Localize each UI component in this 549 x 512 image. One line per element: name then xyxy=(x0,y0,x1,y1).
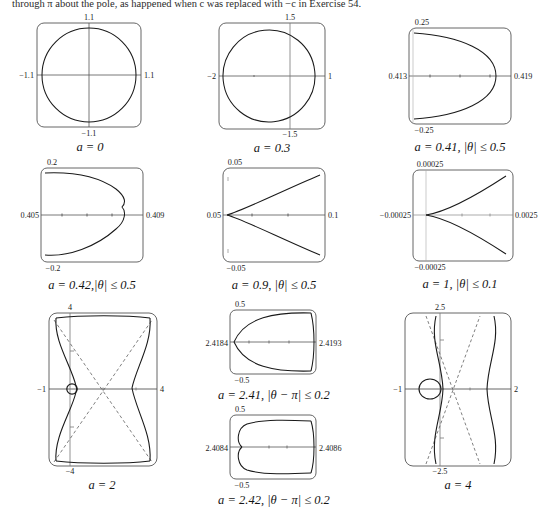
figure-panel-a09: 0.05 −0.05 0.05 0.1 a = 0.9, |θ| ≤ 0.5 xyxy=(190,158,360,296)
axis-tick-bottom-a042: −0.2 xyxy=(46,264,61,273)
figure-panel-a241: 0.5 −0.5 2.4184 2.4193 a = 2.41, |θ − π|… xyxy=(190,300,360,400)
axis-tick-left-a041: 0.413 xyxy=(389,72,407,81)
figure-caption-a041: a = 0.41, |θ| ≤ 0.5 xyxy=(415,140,506,154)
figure-caption-a0: a = 0 xyxy=(76,140,103,154)
figure-panel-a03: 1.5 −1.5 −2 1 a = 0.3 xyxy=(196,18,356,156)
figure-panel-a041: 0.25 −0.25 0.413 0.419 a = 0.41, |θ| ≤ 0… xyxy=(376,18,546,156)
figure-caption-a4: a = 4 xyxy=(444,478,471,492)
axis-tick-right-a1: 0.0025 xyxy=(515,211,538,220)
plot-frame-a1 xyxy=(412,169,514,262)
axis-tick-top-a041: 0.25 xyxy=(415,18,429,27)
axis-tick-bottom-a03: −1.5 xyxy=(283,130,298,139)
axis-tick-bottom-a2: −4 xyxy=(66,467,75,476)
axis-tick-top-a09: 0.05 xyxy=(228,158,242,167)
figure-panel-a4: 2.5 −2.5 −1 2 a = 4 xyxy=(376,300,546,500)
axis-tick-left-a042: 0.405 xyxy=(21,211,39,220)
figure-caption-a09: a = 0.9, |θ| ≤ 0.5 xyxy=(232,278,317,292)
plot-frame-a0 xyxy=(36,22,142,128)
axis-tick-top-a241: 0.5 xyxy=(235,300,245,309)
figure-caption-a1: a = 1, |θ| ≤ 0.1 xyxy=(422,277,497,291)
axis-tick-top-a03: 1.5 xyxy=(285,13,295,22)
axis-tick-left-a241: 2.4184 xyxy=(205,339,228,348)
axis-tick-bottom-a1: −0.00025 xyxy=(414,263,445,272)
axis-tick-right-a241: 2.4193 xyxy=(319,339,342,348)
axis-tick-right-a03: 1 xyxy=(328,72,332,81)
plot-frame-a242 xyxy=(229,414,317,480)
axis-tick-right-a041: 0.419 xyxy=(514,72,532,81)
axis-tick-top-a2: 4 xyxy=(68,303,72,312)
plot-frame-a2 xyxy=(48,312,158,467)
axis-tick-top-a1: 0.00025 xyxy=(417,160,444,169)
axis-tick-right-a4: 2 xyxy=(514,385,518,394)
axis-tick-left-a03: −2 xyxy=(207,72,216,81)
figure-caption-a242: a = 2.42, |θ − π| ≤ 0.2 xyxy=(218,493,330,507)
axis-tick-left-a4: −1 xyxy=(393,385,402,394)
figure-caption-a241: a = 2.41, |θ − π| ≤ 0.2 xyxy=(218,388,330,402)
plot-frame-a241 xyxy=(229,309,317,375)
axis-tick-left-a09: 0.05 xyxy=(207,211,221,220)
figure-page: through π about the pole, as happened wh… xyxy=(0,0,549,512)
figure-caption-a042: a = 0.42,|θ| ≤ 0.5 xyxy=(48,278,136,292)
body-text-line: through π about the pole, as happened wh… xyxy=(12,0,542,10)
plot-frame-a042 xyxy=(40,167,144,263)
plot-frame-a4 xyxy=(404,312,512,467)
axis-tick-left-a1: −0.00025 xyxy=(380,211,411,220)
figure-caption-a03: a = 0.3 xyxy=(254,141,291,155)
plot-frame-a03 xyxy=(218,22,326,130)
axis-tick-top-a042: 0.2 xyxy=(47,158,57,167)
plot-frame-a09 xyxy=(222,167,326,263)
axis-tick-top-a242: 0.5 xyxy=(235,405,245,414)
axis-tick-bottom-a242: −0.5 xyxy=(235,481,250,490)
axis-tick-left-a2: −1 xyxy=(37,385,46,394)
axis-tick-bottom-a241: −0.5 xyxy=(235,376,250,385)
figure-caption-a2: a = 2 xyxy=(88,478,115,492)
figure-panel-a2: 4 −4 −1 4 a = 2 xyxy=(20,300,190,500)
axis-tick-right-a042: 0.409 xyxy=(146,211,164,220)
axis-tick-right-a09: 0.1 xyxy=(328,211,338,220)
axis-tick-left-a0: −1.1 xyxy=(19,71,34,80)
axis-tick-right-a0: 1.1 xyxy=(144,71,154,80)
axis-tick-bottom-a041: −0.25 xyxy=(415,126,434,135)
plot-frame-a041 xyxy=(408,27,512,125)
figure-panel-a042: 0.2 −0.2 0.405 0.409 a = 0.42,|θ| ≤ 0.5 xyxy=(8,158,178,296)
axis-tick-right-a242: 2.4086 xyxy=(319,444,342,453)
axis-tick-top-a4: 2.5 xyxy=(435,303,445,312)
axis-tick-bottom-a09: −0.05 xyxy=(227,264,246,273)
axis-tick-right-a2: 4 xyxy=(160,385,164,394)
figure-panel-a0: 1.1 −1.1 −1.1 1.1 a = 0 xyxy=(14,18,174,156)
axis-tick-bottom-a4: −2.5 xyxy=(433,467,448,476)
axis-tick-left-a242: 2.4084 xyxy=(205,444,228,453)
axis-tick-bottom-a0: −1.1 xyxy=(82,129,97,138)
figure-panel-a1: 0.00025 −0.00025 −0.00025 0.0025 a = 1, … xyxy=(372,158,546,296)
figure-panel-a242: 0.5 −0.5 2.4084 2.4086 a = 2.42, |θ − π|… xyxy=(190,405,360,505)
axis-tick-top-a0: 1.1 xyxy=(84,13,94,22)
